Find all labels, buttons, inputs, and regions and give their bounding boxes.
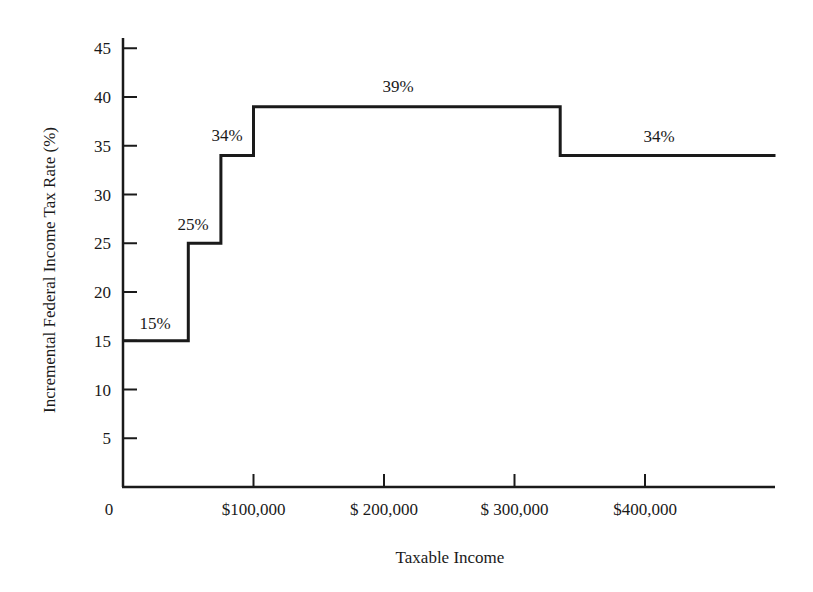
y-axis-ticks: 51015202530354045 (94, 39, 137, 448)
bracket-label: 15% (139, 314, 170, 333)
y-tick-label: 25 (94, 234, 111, 253)
bracket-label: 39% (382, 77, 413, 96)
bracket-label: 34% (643, 127, 674, 146)
y-tick-label: 35 (94, 137, 111, 156)
x-tick-label: $100,000 (222, 500, 286, 519)
x-axis-title: Taxable Income (396, 548, 505, 567)
x-tick-label: $400,000 (613, 500, 677, 519)
x-tick-label: $ 200,000 (350, 500, 418, 519)
y-tick-label: 10 (94, 381, 111, 400)
bracket-label: 25% (177, 215, 208, 234)
y-tick-label: 5 (103, 429, 112, 448)
y-tick-label: 40 (94, 88, 111, 107)
x-tick-label: $ 300,000 (481, 500, 549, 519)
y-tick-label: 45 (94, 39, 111, 58)
y-tick-label: 15 (94, 332, 111, 351)
x-tick-label: 0 (105, 500, 114, 519)
tax-rate-step-chart: 51015202530354045 0$100,000$ 200,000$ 30… (0, 0, 813, 592)
y-tick-label: 30 (94, 186, 111, 205)
y-axis-title: Incremental Federal Income Tax Rate (%) (40, 127, 59, 413)
bracket-label: 34% (211, 126, 242, 145)
x-axis-ticks: 0$100,000$ 200,000$ 300,000$400,000 (105, 474, 677, 519)
y-tick-label: 20 (94, 283, 111, 302)
